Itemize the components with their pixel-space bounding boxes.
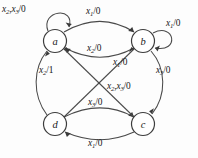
edge-label-a-to-b: x1/0 (86, 7, 100, 16)
node-c[interactable]: c (132, 113, 155, 136)
edge-label-d-to-a: x2/1 (39, 66, 53, 75)
edge-d-to-c (64, 108, 134, 117)
edge-label-b-self: x1/0 (166, 19, 180, 28)
edge-label-c-to-d: x1/0 (88, 139, 102, 148)
self-loop-b (153, 31, 172, 52)
edge-b-to-c (149, 51, 163, 114)
edge-label-d-to-c: x3/0 (88, 98, 102, 107)
node-b[interactable]: b (132, 30, 155, 53)
state-diagram-canvas: a b d c x2,x3/0 x1/0 x1/0 x2/0 x2/1 x1/0 (0, 0, 198, 158)
node-b-label: b (140, 36, 145, 47)
self-loop-a (47, 13, 72, 31)
node-a[interactable]: a (44, 30, 67, 53)
node-d[interactable]: d (44, 113, 67, 136)
edge-label-b-to-a: x2/0 (87, 44, 101, 53)
edge-label-b-to-c: x3/0 (156, 66, 170, 75)
node-c-label: c (141, 119, 146, 130)
node-d-label: d (52, 119, 58, 130)
edge-label-a-self: x2,x3/0 (2, 5, 26, 14)
node-a-label: a (52, 36, 57, 47)
edge-label-d-to-b: x1/0 (113, 58, 127, 67)
edge-label-c-to-a: x2,x3/0 (107, 82, 131, 91)
edge-d-to-a (36, 51, 50, 115)
edge-a-to-b (64, 22, 134, 33)
